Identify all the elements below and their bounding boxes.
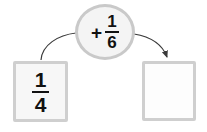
fraction-flow-diagram: 1 4 + 1 6 [0, 0, 207, 132]
start-value-box[interactable]: 1 4 [13, 61, 68, 122]
fraction-one-fourth: 1 4 [32, 69, 49, 115]
denominator: 6 [107, 34, 116, 51]
arrow-to-result-icon [134, 34, 167, 57]
result-value-box[interactable] [142, 61, 196, 121]
numerator: 1 [107, 13, 116, 30]
numerator: 1 [35, 69, 47, 90]
fraction-one-sixth: 1 6 [105, 13, 119, 51]
plus-icon: + [91, 23, 102, 42]
operation-circle[interactable]: + 1 6 [75, 4, 135, 60]
denominator: 4 [35, 94, 47, 115]
arrow-from-start-icon [41, 33, 76, 60]
